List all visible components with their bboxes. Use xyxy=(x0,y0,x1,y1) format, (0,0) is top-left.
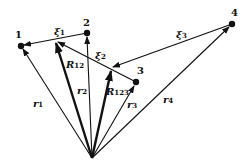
point-4 xyxy=(229,21,235,27)
label-R123: R123 xyxy=(106,87,129,97)
label-r4: r4 xyxy=(163,95,173,105)
vector-r2 xyxy=(87,37,92,158)
xi2-subscript: 2 xyxy=(101,52,106,61)
label-r3: r3 xyxy=(127,100,137,110)
point-3-label: 3 xyxy=(137,66,144,76)
point-1-label: 1 xyxy=(15,30,22,40)
R123-subscript: 123 xyxy=(114,88,129,97)
label-r2: r2 xyxy=(77,86,87,96)
r3-subscript: 3 xyxy=(132,101,137,110)
label-r1: r1 xyxy=(33,99,43,109)
point-2 xyxy=(84,30,90,36)
vector-canvas xyxy=(0,0,251,167)
xi1-subscript: 1 xyxy=(60,28,65,37)
r4-subscript: 4 xyxy=(168,96,173,105)
label-xi2: ξ2 xyxy=(95,51,106,61)
point-2-label: 2 xyxy=(83,18,90,28)
jacobi-coordinates-diagram: 1 2 3 4 ξ1 ξ2 ξ3 R12 R123 r1 r2 r3 r4 xyxy=(0,0,251,167)
label-R12: R12 xyxy=(66,60,84,70)
xi3-subscript: 3 xyxy=(182,31,187,40)
r1-subscript: 1 xyxy=(38,100,43,109)
r2-subscript: 2 xyxy=(82,87,87,96)
point-1 xyxy=(18,43,24,49)
point-4-label: 4 xyxy=(231,8,238,18)
vector-R123 xyxy=(92,71,111,158)
vector-xi3 xyxy=(113,24,232,67)
label-xi1: ξ1 xyxy=(54,27,65,37)
label-xi3: ξ3 xyxy=(176,30,187,40)
point-3 xyxy=(133,79,139,85)
R12-subscript: 12 xyxy=(74,61,84,70)
